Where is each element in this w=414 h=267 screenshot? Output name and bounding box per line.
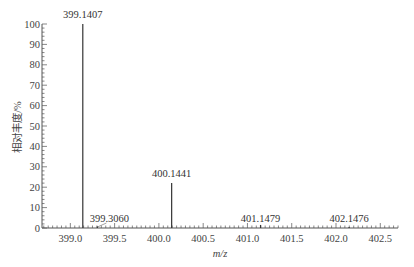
y-tick-label: 30 [30,161,41,172]
x-axis: 399.0399.5400.0400.5401.0401.5402.0402.5 [42,223,398,244]
x-tick-label: 399.5 [103,233,127,244]
x-tick-label: 401.0 [236,233,260,244]
x-tick-label: 401.5 [280,233,304,244]
y-axis-title: 相对丰度/% [11,101,23,153]
y-tick-label: 90 [30,39,41,50]
y-tick-label: 0 [35,223,40,234]
y-tick-label: 80 [30,59,41,70]
y-tick-label: 50 [30,121,41,132]
x-axis-title: m/z [213,248,228,259]
peak-label: 402.1476 [329,213,368,224]
x-tick-label: 399.0 [59,233,83,244]
x-tick-label: 402.0 [324,233,348,244]
peak-label: 399.3060 [90,213,129,224]
y-tick-label: 70 [30,80,41,91]
x-tick-label: 400.0 [147,233,171,244]
y-tick-label: 100 [24,19,40,30]
y-tick-label: 40 [30,141,41,152]
mass-spectrum-chart: 0102030405060708090100 399.0399.5400.040… [0,0,414,267]
peak-label: 399.1407 [63,9,102,20]
x-tick-label: 400.5 [191,233,215,244]
y-tick-label: 20 [30,182,41,193]
y-tick-label: 10 [30,202,41,213]
peak-label: 401.1479 [241,213,280,224]
peaks [83,24,349,228]
x-tick-label: 402.5 [368,233,392,244]
peak-labels: 399.1407399.3060400.1441401.1479402.1476 [63,9,369,227]
y-tick-label: 60 [30,100,41,111]
peak-label: 400.1441 [152,168,191,179]
y-axis: 0102030405060708090100 [24,19,47,234]
